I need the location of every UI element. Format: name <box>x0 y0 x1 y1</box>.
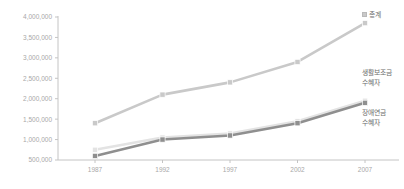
series-label-livelihood-subsidy-recipients: 생활보조금수혜자 <box>362 68 392 87</box>
series-marker <box>92 153 97 158</box>
series-marker <box>362 100 367 105</box>
y-axis-tick-label: 3,500,000 <box>23 34 52 41</box>
x-axis-tick-label: 1992 <box>155 166 170 173</box>
series-label-line: 수혜자 <box>362 78 392 88</box>
line-chart: 500,0001,000,0001,500,0002,000,0002,500,… <box>0 0 404 189</box>
series-label-line: 수혜자 <box>362 118 386 128</box>
series-marker <box>295 121 300 126</box>
chart-canvas: 500,0001,000,0001,500,0002,000,0002,500,… <box>0 0 404 189</box>
series-label-line: 장애연금 <box>362 108 386 118</box>
y-axis-tick-label: 2,000,000 <box>23 95 52 102</box>
x-axis-tick-label: 2002 <box>290 166 305 173</box>
y-axis-tick-label: 1,000,000 <box>23 136 52 143</box>
series-marker <box>160 137 165 142</box>
y-axis-tick-label: 4,000,000 <box>23 13 52 20</box>
series-label-disability-pension-recipients: 장애연금수혜자 <box>362 108 386 127</box>
series-label-total: 총계 <box>369 10 381 20</box>
series-line <box>95 101 365 150</box>
y-axis-tick-label: 1,500,000 <box>23 116 52 123</box>
x-axis-tick-label: 2007 <box>358 166 373 173</box>
series-marker <box>362 21 367 26</box>
y-axis-tick-label: 3,000,000 <box>23 54 52 61</box>
y-axis-tick-label: 500,000 <box>29 156 53 163</box>
x-axis-tick-label: 1987 <box>88 166 103 173</box>
series-marker <box>160 92 165 97</box>
series-marker <box>227 80 232 85</box>
series-marker <box>295 59 300 64</box>
legend-swatch-total <box>362 12 367 17</box>
y-axis-tick-label: 2,500,000 <box>23 75 52 82</box>
series-line <box>95 23 365 123</box>
series-label-line: 생활보조금 <box>362 68 392 78</box>
series-line <box>95 103 365 156</box>
x-axis-tick-label: 1997 <box>223 166 238 173</box>
series-marker <box>92 147 97 152</box>
series-label-line: 총계 <box>369 10 381 20</box>
series-marker <box>227 133 232 138</box>
series-marker <box>92 121 97 126</box>
